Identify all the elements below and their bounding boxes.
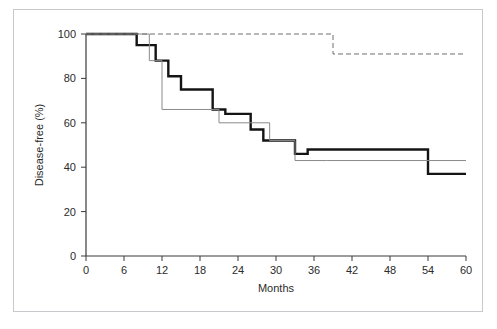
x-tick-label-60: 60 — [460, 264, 472, 276]
y-tick-label-100: 100 — [58, 28, 76, 40]
y-axis-title: Disease-free (%) — [33, 104, 45, 187]
series-group — [86, 34, 466, 174]
y-tick-label-0: 0 — [70, 250, 76, 262]
x-tick-label-48: 48 — [384, 264, 396, 276]
y-tick-label-80: 80 — [64, 72, 76, 84]
kaplan-meier-plot: 020406080100 06121824303642485460 Months… — [0, 0, 497, 329]
x-axis-title: Months — [258, 282, 295, 294]
x-axis-tick-labels: 06121824303642485460 — [83, 264, 472, 276]
y-tick-label-60: 60 — [64, 117, 76, 129]
x-tick-label-54: 54 — [422, 264, 434, 276]
x-tick-label-0: 0 — [83, 264, 89, 276]
x-tick-label-30: 30 — [270, 264, 282, 276]
x-axis-ticks — [86, 256, 466, 261]
axis-lines — [86, 34, 466, 256]
x-tick-label-6: 6 — [121, 264, 127, 276]
x-tick-label-24: 24 — [232, 264, 244, 276]
y-axis-ticks — [81, 34, 86, 256]
curve-thick-black — [86, 34, 466, 174]
x-tick-label-42: 42 — [346, 264, 358, 276]
y-tick-label-20: 20 — [64, 206, 76, 218]
y-tick-label-40: 40 — [64, 161, 76, 173]
x-tick-label-18: 18 — [194, 264, 206, 276]
x-tick-label-36: 36 — [308, 264, 320, 276]
figure-root: 020406080100 06121824303642485460 Months… — [0, 0, 497, 329]
y-axis-tick-labels: 020406080100 — [58, 28, 76, 262]
x-tick-label-12: 12 — [156, 264, 168, 276]
